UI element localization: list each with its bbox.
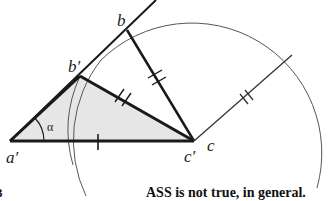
shaded-triangle: [10, 76, 194, 141]
edge-fragment: 3: [0, 185, 3, 200]
figure-caption: ASS is not true, in general.: [146, 185, 306, 200]
label-alpha: α: [47, 120, 54, 134]
label-c-prime: c′: [184, 147, 196, 166]
label-b-prime: b′: [68, 57, 81, 76]
ass-diagram: b b′ α a′ c′ c ASS is not true, in gener…: [0, 0, 328, 201]
label-b: b: [117, 11, 126, 30]
label-c: c: [207, 136, 215, 155]
label-a-prime: a′: [6, 148, 19, 167]
